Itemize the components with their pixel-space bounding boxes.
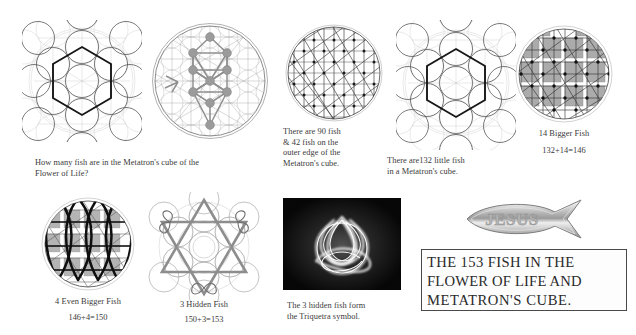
headline-line-1: THE 153 FISH IN THE — [427, 253, 622, 272]
figure-metatron-question — [22, 20, 142, 142]
figure-metatron-132 — [396, 20, 516, 150]
caption-little-fish: There are132 little fish in a Metatron's… — [387, 156, 517, 177]
fish-lattice-diagram — [280, 22, 388, 125]
caption-even-bigger-fish-label: 4 Even Bigger Fish — [26, 297, 150, 308]
caption-bigger-fish-label: 14 Bigger Fish — [503, 129, 625, 140]
hexagram-hidden-fish-diagram — [148, 192, 260, 302]
figure-flower-tree — [148, 20, 273, 142]
jesus-fish-label: JESUS — [485, 210, 539, 229]
figure-triquetra-photo — [283, 198, 401, 290]
jesus-fish-emblem: JESUS — [455, 198, 595, 240]
caption-outer-edge: There are 90 fish & 42 fish on the outer… — [283, 127, 373, 169]
metatron-cube-diagram — [22, 20, 142, 142]
figure-even-bigger-fish — [36, 196, 140, 294]
metatron-cube-diagram — [396, 20, 516, 150]
figure-hidden-fish — [148, 192, 260, 302]
headline-line-2: FLOWER OF LIFE AND — [427, 272, 622, 291]
caption-bigger-fish-sum: 132+14=146 — [503, 146, 625, 157]
caption-hidden-fish-label: 3 Hidden Fish — [142, 300, 266, 311]
caption-triquetra: The 3 hidden fish form the Triquetra sym… — [287, 301, 412, 322]
even-bigger-fish-diagram — [36, 196, 140, 294]
caption-question: How many fish are in the Metatron's cube… — [35, 158, 270, 179]
headline-box: THE 153 FISH IN THE FLOWER OF LIFE AND M… — [421, 249, 627, 311]
headline-line-3: METATRON'S CUBE. — [427, 291, 622, 310]
figure-fish-lattice — [280, 22, 388, 125]
caption-hidden-fish-sum: 150+3=153 — [142, 315, 266, 326]
figure-bigger-fish — [509, 22, 619, 126]
caption-even-bigger-fish-sum: 146+4=150 — [26, 313, 150, 324]
bigger-fish-diagram — [509, 22, 619, 126]
jesus-fish-icon: JESUS — [455, 198, 595, 240]
triquetra-photo — [283, 198, 401, 290]
flower-of-life-tree-diagram — [148, 20, 273, 142]
